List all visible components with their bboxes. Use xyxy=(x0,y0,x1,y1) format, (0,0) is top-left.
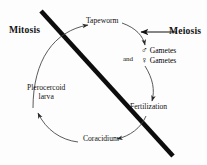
plerocercoid-line-2: larva xyxy=(27,93,65,102)
node-label-fertilization: Fertilization xyxy=(130,103,167,111)
node-label-gametes-male: Gametes xyxy=(150,46,177,55)
node-label-coracidium: Coracidium xyxy=(83,135,119,143)
gametes-male-row: ♂ Gametes xyxy=(141,45,176,55)
domain-label-mitosis: Mitosis xyxy=(9,25,40,35)
domain-label-meiosis: Meiosis xyxy=(169,26,201,36)
node-label-gametes-female: Gametes xyxy=(150,56,177,65)
lifecycle-diagram: Mitosis Meiosis Tapeworm ♂ Gametes and ♀… xyxy=(0,0,207,165)
gametes-female-row: ♀ Gametes xyxy=(141,55,176,65)
and-connector-label: and xyxy=(123,56,133,63)
male-symbol-icon: ♂ xyxy=(141,45,148,55)
arrow-tapeworm-to-gametes xyxy=(122,23,145,45)
female-symbol-icon: ♀ xyxy=(141,55,148,65)
arrow-gametes-to-fertilization xyxy=(145,66,153,101)
arrow-coracidium-to-plerocercoid xyxy=(38,113,78,142)
node-label-tapeworm: Tapeworm xyxy=(86,17,118,25)
node-label-plerocercoid-larva: Plerocercoid larva xyxy=(27,84,65,101)
